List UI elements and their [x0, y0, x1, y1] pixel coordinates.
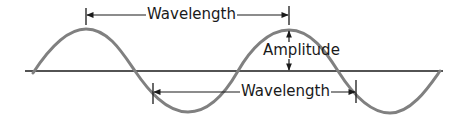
wavelength-top-label: Wavelength	[146, 7, 237, 22]
wavelength-bottom-label: Wavelength	[240, 84, 331, 99]
amplitude-label: Amplitude	[262, 43, 341, 58]
wave-diagram: Wavelength Wavelength Amplitude	[0, 0, 459, 119]
